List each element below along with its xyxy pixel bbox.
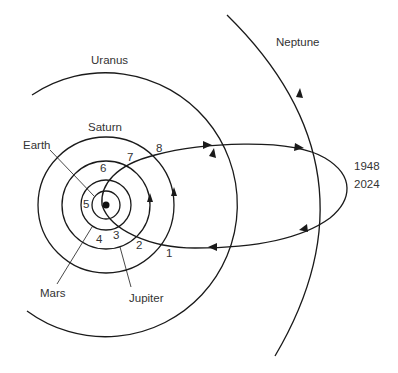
- position-2: 2: [136, 239, 142, 251]
- label-jupiter: Jupiter: [129, 292, 164, 304]
- arrow-comet-top1-icon: [203, 141, 212, 149]
- arrow-jupiter-icon: [147, 193, 153, 202]
- arrow-comet-bottom1-icon: [299, 224, 308, 232]
- position-4: 4: [96, 233, 103, 245]
- arrow-uranus-icon: [209, 148, 216, 158]
- comet-orbit-diagram: Uranus Neptune Saturn Earth Mars Jupiter…: [0, 0, 398, 373]
- orbit-neptune: [227, 15, 320, 356]
- position-1: 1: [166, 247, 172, 259]
- position-7: 7: [127, 151, 133, 163]
- leader-earth: [50, 150, 94, 196]
- comet-orbit: [102, 144, 347, 248]
- position-6: 6: [100, 162, 106, 174]
- arrow-neptune-icon: [296, 88, 303, 98]
- arrow-comet-bottom2-icon: [208, 243, 217, 251]
- label-year-2024: 2024: [354, 178, 380, 190]
- label-year-1948: 1948: [354, 160, 380, 172]
- label-neptune: Neptune: [276, 36, 319, 48]
- leader-jupiter: [120, 247, 131, 287]
- position-5: 5: [83, 198, 89, 210]
- label-earth: Earth: [23, 139, 51, 151]
- label-saturn: Saturn: [88, 121, 122, 133]
- position-8: 8: [156, 142, 162, 154]
- position-3: 3: [113, 229, 119, 241]
- label-mars: Mars: [40, 287, 66, 299]
- label-uranus: Uranus: [91, 54, 128, 66]
